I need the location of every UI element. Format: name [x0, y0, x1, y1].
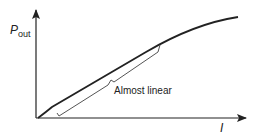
annotation-label: Almost linear: [114, 85, 172, 96]
diagram-canvas: Pout I Almost linear: [0, 0, 254, 138]
x-axis-label: I: [220, 121, 224, 135]
y-axis-label: Pout: [10, 23, 31, 39]
output-curve: [38, 17, 238, 118]
linear-region-bracket: [57, 45, 160, 116]
